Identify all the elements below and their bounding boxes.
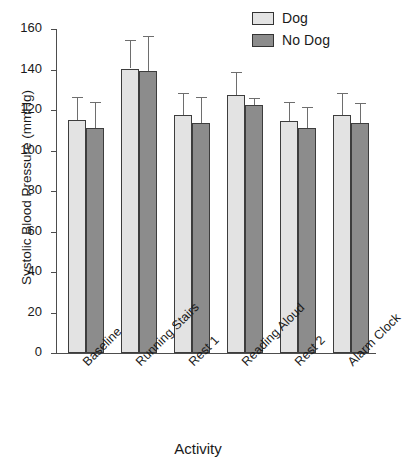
plot-area: 020406080100120140160 BaselineRunning St… (57, 29, 375, 353)
bar (68, 120, 86, 353)
bar (139, 71, 157, 353)
y-axis-tick-label: 0 (35, 345, 42, 359)
y-axis-tick: 0 (51, 353, 57, 354)
bar (351, 123, 369, 353)
error-bar-line (360, 103, 361, 123)
error-bar-cap (355, 103, 366, 104)
error-bar-line (342, 93, 343, 115)
error-bar-line (77, 97, 78, 120)
bar (227, 95, 245, 353)
error-bar-cap (302, 107, 313, 108)
error-bar-line (289, 102, 290, 121)
y-axis-tick-label: 120 (20, 102, 42, 116)
y-axis-tick: 40 (51, 272, 57, 273)
y-axis-tick-label: 40 (28, 264, 42, 278)
error-bar-cap (196, 97, 207, 98)
error-bar-line (236, 72, 237, 95)
legend-swatch-dog (252, 12, 274, 25)
y-axis-tick: 160 (51, 29, 57, 30)
y-axis-tick-label: 160 (20, 21, 42, 35)
x-axis-title: Activity (0, 440, 396, 457)
bar (86, 128, 104, 353)
error-bar-cap (284, 102, 295, 103)
legend-item-dog: Dog (252, 8, 382, 28)
error-bar-line (95, 102, 96, 128)
error-bar-line (254, 98, 255, 105)
y-axis-tick-label: 80 (28, 183, 42, 197)
error-bar-line (183, 93, 184, 115)
y-axis-tick: 120 (51, 110, 57, 111)
bar (298, 128, 316, 353)
y-axis-tick-label: 140 (20, 62, 42, 76)
y-axis-tick: 80 (51, 191, 57, 192)
y-axis-tick: 20 (51, 313, 57, 314)
error-bar-cap (125, 40, 136, 41)
y-axis-tick: 140 (51, 70, 57, 71)
error-bar-cap (90, 102, 101, 103)
error-bar-line (130, 40, 131, 68)
legend-label-dog: Dog (282, 11, 308, 25)
error-bar-cap (249, 98, 260, 99)
error-bar-cap (178, 93, 189, 94)
error-bar-line (148, 36, 149, 70)
error-bar-cap (337, 93, 348, 94)
y-axis-tick-label: 100 (20, 143, 42, 157)
y-axis-tick-label: 60 (28, 224, 42, 238)
error-bar-line (307, 107, 308, 128)
error-bar-line (201, 97, 202, 123)
y-axis-tick-label: 20 (28, 305, 42, 319)
bar (333, 115, 351, 353)
error-bar-cap (72, 97, 83, 98)
error-bar-cap (231, 72, 242, 73)
bar (245, 105, 263, 353)
bar (192, 123, 210, 353)
y-axis-tick: 100 (51, 151, 57, 152)
y-axis-tick: 60 (51, 232, 57, 233)
bar (121, 69, 139, 354)
error-bar-cap (143, 36, 154, 37)
